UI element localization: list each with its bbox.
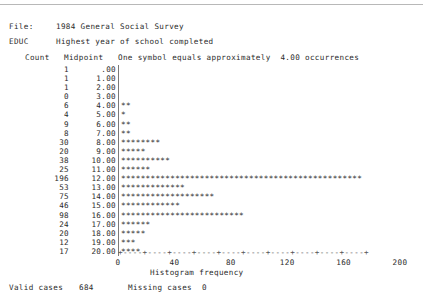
row-midpoint: 15.00: [72, 201, 116, 210]
histogram-row: 209.00*****: [0, 147, 423, 156]
column-header-midpoint: Midpoint: [64, 53, 103, 62]
row-midpoint: 7.00: [72, 129, 116, 138]
row-midpoint: 10.00: [72, 156, 116, 165]
row-count: 6: [25, 101, 69, 110]
histogram-row: 87.00**: [0, 129, 423, 138]
row-midpoint: 3.00: [72, 92, 116, 101]
histogram-row: 1219.00***: [0, 238, 423, 247]
row-count: 1: [25, 74, 69, 83]
histogram-output-page: File: 1984 General Social Survey EDUC Hi…: [0, 0, 423, 300]
symbol-scale-note: One symbol equals approximately 4.00 occ…: [118, 53, 359, 62]
histogram-row: 12.00: [0, 83, 423, 92]
file-label: File:: [9, 22, 34, 31]
row-midpoint: 8.00: [72, 138, 116, 147]
row-bar: *: [121, 110, 126, 119]
row-bar: *************: [121, 183, 185, 192]
row-bar: ******: [121, 165, 151, 174]
row-count: 38: [25, 156, 69, 165]
histogram-row: 96.00**: [0, 120, 423, 129]
row-bar: *******************: [121, 192, 215, 201]
row-bar: ****************************************…: [121, 174, 362, 183]
histogram-row: 2417.00******: [0, 220, 423, 229]
row-midpoint: 9.00: [72, 147, 116, 156]
histogram-rows: 1.0011.0012.0003.0064.00**45.00*96.00**8…: [0, 65, 423, 256]
row-count: 20: [25, 147, 69, 156]
row-midpoint: 4.00: [72, 101, 116, 110]
histogram-row: 11.00: [0, 74, 423, 83]
x-axis-line: +----+----+----+----+----+----+----+----…: [118, 249, 369, 257]
row-count: 53: [25, 183, 69, 192]
row-midpoint: 5.00: [72, 110, 116, 119]
row-midpoint: 11.00: [72, 165, 116, 174]
row-count: 24: [25, 220, 69, 229]
row-count: 12: [25, 238, 69, 247]
row-midpoint: 13.00: [72, 183, 116, 192]
variable-description: Highest year of school completed: [56, 37, 214, 46]
row-bar: **: [121, 120, 131, 129]
x-tick-label: 0: [116, 258, 121, 267]
row-count: 30: [25, 138, 69, 147]
row-midpoint: 12.00: [72, 174, 116, 183]
histogram-row: 4615.00************: [0, 201, 423, 210]
row-midpoint: 19.00: [72, 238, 116, 247]
row-count: 0: [25, 92, 69, 101]
row-count: 25: [25, 165, 69, 174]
row-count: 46: [25, 201, 69, 210]
row-count: 17: [25, 247, 69, 256]
x-tick-label: 80: [226, 258, 236, 267]
x-tick-label: 40: [169, 258, 179, 267]
row-count: 9: [25, 120, 69, 129]
histogram-row: 03.00: [0, 92, 423, 101]
top-divider: [0, 4, 423, 5]
file-value: 1984 General Social Survey: [56, 22, 184, 31]
row-bar: **********: [121, 156, 170, 165]
row-bar: *****: [121, 229, 146, 238]
row-midpoint: .00: [72, 65, 116, 74]
row-midpoint: 14.00: [72, 192, 116, 201]
row-bar: **: [121, 101, 131, 110]
histogram-row: 64.00**: [0, 101, 423, 110]
histogram-row: 45.00*: [0, 110, 423, 119]
row-count: 8: [25, 129, 69, 138]
histogram-row: 9816.00*************************: [0, 211, 423, 220]
row-count: 1: [25, 65, 69, 74]
column-header-count: Count: [25, 53, 50, 62]
row-midpoint: 18.00: [72, 229, 116, 238]
row-midpoint: 17.00: [72, 220, 116, 229]
row-count: 98: [25, 211, 69, 220]
row-midpoint: 6.00: [72, 120, 116, 129]
row-bar: *****: [121, 147, 146, 156]
histogram-row: 2018.00*****: [0, 229, 423, 238]
row-count: 1: [25, 83, 69, 92]
histogram-row: 5313.00*************: [0, 183, 423, 192]
histogram-row: 2511.00******: [0, 165, 423, 174]
valid-cases-value: 684: [79, 283, 94, 292]
variable-name-label: EDUC: [9, 37, 29, 46]
x-tick-label: 120: [280, 258, 295, 267]
row-bar: ********: [121, 138, 160, 147]
histogram-row: 1.00: [0, 65, 423, 74]
x-tick-label: 200: [393, 258, 408, 267]
row-bar: *************************: [121, 211, 244, 220]
row-bar: ******: [121, 220, 151, 229]
row-count: 75: [25, 192, 69, 201]
row-midpoint: 16.00: [72, 211, 116, 220]
row-count: 4: [25, 110, 69, 119]
row-count: 20: [25, 229, 69, 238]
row-midpoint: 20.00: [72, 247, 116, 256]
histogram-row: 308.00********: [0, 138, 423, 147]
x-tick-label: 160: [336, 258, 351, 267]
histogram-row: 19612.00********************************…: [0, 174, 423, 183]
missing-cases-label: Missing cases: [128, 283, 192, 292]
missing-cases-value: 0: [202, 283, 207, 292]
valid-cases-label: Valid cases: [9, 283, 63, 292]
row-midpoint: 2.00: [72, 83, 116, 92]
row-count: 196: [25, 174, 69, 183]
row-bar: ***: [121, 238, 136, 247]
row-bar: ************: [121, 201, 180, 210]
histogram-row: 3810.00**********: [0, 156, 423, 165]
row-midpoint: 1.00: [72, 74, 116, 83]
x-axis-tick-labels: 04080120160200: [0, 258, 423, 268]
x-axis-title: Histogram frequency: [150, 268, 244, 277]
row-bar: **: [121, 129, 131, 138]
